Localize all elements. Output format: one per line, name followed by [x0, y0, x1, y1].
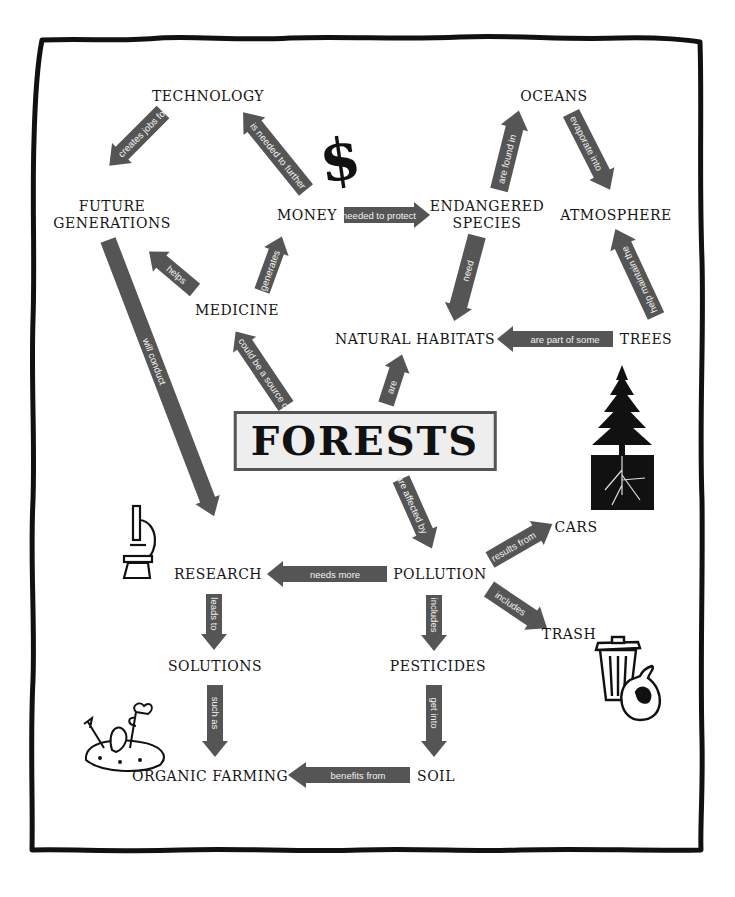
- node-endangered-species: ENDANGERED SPECIES: [430, 198, 544, 232]
- arrow-needed-to-protect: needed to protect: [342, 202, 430, 228]
- arrow-leads-to: leads to: [201, 594, 227, 650]
- arrow-results-from: results from: [483, 512, 559, 572]
- arrow-includes-pesticides: includes: [421, 595, 447, 651]
- node-money: MONEY: [277, 207, 337, 224]
- svg-text:evaporate into: evaporate into: [568, 114, 605, 173]
- arrow-helps: helps: [141, 241, 204, 299]
- svg-text:needed to protect: needed to protect: [342, 210, 416, 221]
- pine-tree-icon: [591, 365, 654, 510]
- gardening-icon: [84, 704, 164, 772]
- node-trash: TRASH: [542, 626, 596, 643]
- arrow-are-found-in: are found in: [485, 107, 532, 193]
- concept-map: creates jobs for is needed to further ne…: [0, 0, 735, 897]
- svg-text:creates jobs for: creates jobs for: [116, 106, 170, 160]
- svg-text:help maintain the: help maintain the: [619, 245, 660, 315]
- node-technology: TECHNOLOGY: [152, 88, 264, 105]
- arrow-benefits-from: benefits from: [288, 762, 410, 788]
- arrow-help-maintain-the: help maintain the: [603, 223, 669, 322]
- node-pollution: POLLUTION: [393, 566, 487, 583]
- svg-text:includes: includes: [429, 598, 440, 633]
- arrow-could-be-a-source-of: could be a source of: [224, 324, 300, 419]
- node-natural-habitats: NATURAL HABITATS: [335, 331, 495, 348]
- node-solutions: SOLUTIONS: [168, 658, 262, 675]
- node-organic-farming: ORGANIC FARMING: [132, 768, 288, 785]
- node-atmosphere: ATMOSPHERE: [560, 207, 672, 224]
- node-future-generations: FUTURE GENERATIONS: [53, 198, 170, 232]
- svg-text:is needed to further: is needed to further: [248, 121, 308, 192]
- arrow-will-conduct: will conduct: [96, 235, 226, 521]
- trash-can-icon: [596, 637, 660, 720]
- node-soil: SOIL: [417, 768, 455, 785]
- svg-text:are part of some: are part of some: [530, 334, 599, 345]
- arrow-are: are: [374, 351, 415, 408]
- node-cars: CARS: [555, 519, 598, 536]
- arrow-generates: generates: [250, 232, 294, 295]
- svg-text:benefits from: benefits from: [331, 770, 386, 781]
- node-endangered-species-line1: ENDANGERED: [430, 198, 544, 215]
- svg-text:$: $: [315, 124, 364, 197]
- node-future-generations-line2: GENERATIONS: [53, 215, 170, 232]
- svg-text:needs more: needs more: [310, 569, 360, 580]
- node-forests-central: FORESTS: [234, 411, 497, 471]
- node-pesticides: PESTICIDES: [390, 658, 486, 675]
- arrow-need: need: [441, 232, 491, 324]
- arrow-get-into: get into: [421, 685, 447, 757]
- arrow-evaporate-into: evaporate into: [559, 107, 623, 196]
- arrow-creates-jobs-for: creates jobs for: [99, 100, 175, 176]
- node-trees: TREES: [620, 331, 672, 348]
- arrow-needs-more: needs more: [267, 561, 387, 587]
- node-future-generations-line1: FUTURE: [53, 198, 170, 215]
- node-research: RESEARCH: [174, 566, 262, 583]
- svg-text:could be a source of: could be a source of: [236, 336, 293, 413]
- microscope-icon: [124, 506, 155, 578]
- node-endangered-species-line2: SPECIES: [430, 215, 544, 232]
- node-oceans: OCEANS: [520, 88, 587, 105]
- arrow-such-as: such as: [202, 685, 228, 757]
- svg-text:generates: generates: [257, 248, 282, 292]
- svg-text:get into: get into: [429, 697, 440, 728]
- svg-text:such as: such as: [210, 697, 221, 730]
- arrow-are-affected-by: are affected by: [387, 470, 445, 554]
- dollar-sign-icon: $: [315, 124, 364, 197]
- node-medicine: MEDICINE: [195, 302, 279, 319]
- svg-text:leads to: leads to: [209, 597, 220, 630]
- arrow-is-needed-to-further: is needed to further: [232, 103, 317, 198]
- arrow-are-part-of-some: are part of some: [497, 326, 613, 352]
